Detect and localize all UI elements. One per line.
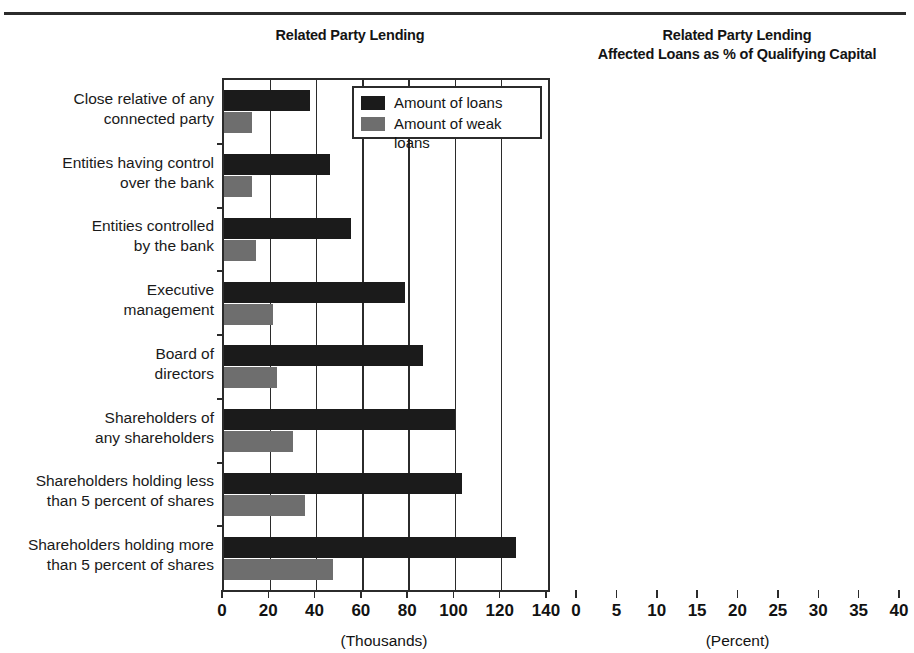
x-axis-tick-label: 0 (571, 601, 580, 621)
legend-item-amount-of-loans: Amount of loans (361, 93, 534, 112)
chart-title-right-line2: Affected Loans as % of Qualifying Capita… (560, 45, 914, 64)
bar-weak-loans (224, 112, 252, 133)
category-label: Executive management (8, 280, 214, 320)
bar-amount-of-loans (224, 345, 423, 366)
category-tick-icon (217, 462, 224, 464)
bar-weak-loans (224, 559, 333, 580)
x-axis-tick-label: 40 (890, 601, 909, 621)
x-axis-tick-label: 30 (809, 601, 828, 621)
x-axis-tick-icon (268, 590, 270, 598)
x-axis-tick-icon (737, 590, 739, 598)
chart-title-right: Related Party Lending Affected Loans as … (560, 26, 914, 64)
gridline (501, 80, 503, 590)
category-tick-icon (217, 334, 224, 336)
bar-weak-loans (224, 495, 305, 516)
chart-title-left-line1: Related Party Lending (276, 27, 425, 43)
x-axis-tick-icon (453, 590, 455, 598)
x-axis-tick-icon (656, 590, 658, 598)
plot-area-left (222, 78, 550, 592)
x-axis-caption-right: (Percent) (706, 632, 770, 650)
category-tick-icon (217, 398, 224, 400)
bar-amount-of-loans (224, 409, 455, 430)
category-label: Shareholders of any shareholders (8, 408, 214, 448)
legend-item-amount-of-weak-loans: Amount of weak loans (361, 114, 534, 152)
gridline (362, 80, 364, 590)
bar-weak-loans (224, 367, 277, 388)
category-label: Close relative of any connected party (8, 89, 214, 129)
category-label: Shareholders holding less than 5 percent… (8, 471, 214, 511)
x-axis-tick-icon (314, 590, 316, 598)
x-axis-tick-icon (575, 590, 577, 598)
x-axis-tick-icon (858, 590, 860, 598)
chart-title-right-line1: Related Party Lending (663, 27, 812, 43)
bar-weak-loans (224, 176, 252, 197)
x-axis-tick-label: 10 (647, 601, 666, 621)
category-tick-icon (217, 143, 224, 145)
figure-root: Related Party Lending Amount of loans Am… (0, 0, 914, 653)
category-tick-icon (217, 207, 224, 209)
x-axis-tick-icon (221, 590, 223, 598)
x-axis-tick-label: 80 (398, 601, 417, 621)
chart-title-left: Related Party Lending (200, 26, 500, 45)
category-label: Board of directors (8, 344, 214, 384)
x-axis-tick-icon (545, 590, 547, 598)
bar-weak-loans (224, 304, 273, 325)
x-axis-tick-label: 100 (439, 601, 467, 621)
x-axis-tick-icon (616, 590, 618, 598)
x-axis-tick-label: 5 (612, 601, 621, 621)
legend-swatch-gray-icon (361, 117, 385, 131)
category-label: Shareholders holding more than 5 percent… (8, 535, 214, 575)
category-label: Entities having control over the bank (8, 153, 214, 193)
bar-amount-of-loans (224, 473, 462, 494)
gridline (408, 80, 410, 590)
bar-amount-of-loans (224, 218, 351, 239)
x-axis-tick-label: 0 (217, 601, 226, 621)
legend-swatch-dark-icon (361, 96, 385, 110)
x-axis-tick-icon (360, 590, 362, 598)
x-axis-tick-label: 40 (305, 601, 324, 621)
x-axis-tick-icon (777, 590, 779, 598)
x-axis-tick-label: 60 (351, 601, 370, 621)
bar-amount-of-loans (224, 154, 330, 175)
chart-panel-right: Related Party Lending Affected Loans as … (560, 0, 914, 653)
x-axis-tick-label: 25 (768, 601, 787, 621)
x-axis-tick-label: 20 (259, 601, 278, 621)
category-tick-icon (217, 270, 224, 272)
x-axis-tick-icon (406, 590, 408, 598)
category-tick-icon (217, 525, 224, 527)
category-label: Entities controlled by the bank (8, 216, 214, 256)
legend-label: Amount of loans (394, 93, 502, 112)
legend-label: Amount of weak loans (394, 114, 534, 152)
gridline (455, 80, 457, 590)
x-axis-tick-icon (499, 590, 501, 598)
bar-amount-of-loans (224, 282, 405, 303)
bar-amount-of-loans (224, 537, 516, 558)
x-axis-caption-left: (Thousands) (340, 632, 427, 650)
x-axis-tick-icon (898, 590, 900, 598)
bar-amount-of-loans (224, 90, 310, 111)
bar-weak-loans (224, 431, 293, 452)
x-axis-tick-label: 15 (688, 601, 707, 621)
x-axis-tick-icon (696, 590, 698, 598)
legend-left: Amount of loans Amount of weak loans (352, 86, 542, 139)
x-axis-tick-icon (818, 590, 820, 598)
x-axis-tick-label: 120 (486, 601, 514, 621)
category-axis-labels: Close relative of any connected partyEnt… (0, 78, 214, 588)
bar-weak-loans (224, 240, 256, 261)
x-axis-tick-label: 35 (849, 601, 868, 621)
x-axis-tick-label: 140 (532, 601, 560, 621)
x-axis-tick-label: 20 (728, 601, 747, 621)
